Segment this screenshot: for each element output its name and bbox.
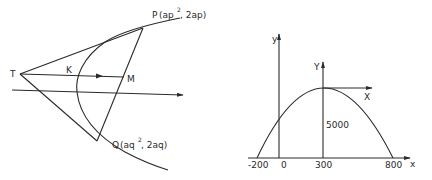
projectile-diagram: y Y X x 5000 -200 0 300 800 bbox=[248, 34, 416, 170]
parabola-tangent-diagram: T K M P (ap 2 , 2ap) Q (aq 2 , 2aq) bbox=[9, 6, 206, 170]
label-x: x bbox=[410, 159, 416, 169]
line-tm bbox=[20, 74, 124, 77]
label-X: X bbox=[364, 92, 370, 102]
tick-0: 0 bbox=[281, 160, 287, 170]
chord-pq bbox=[97, 28, 143, 141]
tangent-line-tq bbox=[20, 74, 97, 141]
tick-800: 800 bbox=[385, 160, 402, 170]
parabola-axis bbox=[12, 90, 183, 95]
label-p: P (ap 2 , 2ap) bbox=[152, 6, 206, 20]
figure-canvas: T K M P (ap 2 , 2ap) Q (aq 2 , 2aq) y Y … bbox=[0, 0, 432, 180]
arrow-head-tm bbox=[96, 74, 103, 79]
tick-300: 300 bbox=[315, 160, 332, 170]
svg-text:P: P bbox=[152, 10, 158, 20]
label-q: Q (aq 2 , 2aq) bbox=[112, 136, 167, 150]
label-t: T bbox=[9, 69, 16, 79]
label-Y: Y bbox=[313, 62, 320, 72]
svg-text:Q: Q bbox=[112, 140, 119, 150]
label-k: K bbox=[66, 65, 73, 75]
svg-text:(aq: (aq bbox=[120, 140, 135, 150]
svg-text:, 2ap): , 2ap) bbox=[180, 10, 206, 20]
svg-text:, 2aq): , 2aq) bbox=[141, 140, 167, 150]
label-m: M bbox=[127, 74, 135, 84]
label-y: y bbox=[272, 34, 278, 44]
svg-text:(ap: (ap bbox=[159, 10, 174, 20]
projectile-parabola bbox=[257, 88, 393, 158]
tick-neg200: -200 bbox=[248, 160, 269, 170]
label-height: 5000 bbox=[326, 120, 349, 130]
